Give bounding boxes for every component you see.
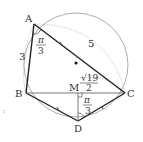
segment-bd xyxy=(26,93,78,121)
angle-d-numerator: π xyxy=(83,95,91,105)
label-d: D xyxy=(74,123,82,134)
mc-denominator: 2 xyxy=(86,83,92,93)
label-a: A xyxy=(24,13,33,24)
label-ab-length: 3 xyxy=(19,51,25,62)
right-angle-mark xyxy=(78,93,82,97)
angle-a-denominator: 3 xyxy=(38,46,44,56)
angle-d-denominator: 3 xyxy=(85,106,91,116)
label-m: M xyxy=(69,82,79,93)
mc-numerator: √19 xyxy=(81,73,98,83)
segment-ac xyxy=(34,24,125,93)
margin-mark: : xyxy=(3,107,5,115)
label-c: C xyxy=(127,88,135,99)
label-ac-length: 5 xyxy=(88,38,94,49)
center-point xyxy=(75,62,78,65)
angle-a-numerator: π xyxy=(37,35,45,45)
label-b: B xyxy=(15,88,22,99)
geometry-diagram: A B C D M 3 5 π 3 √19 2 π 3 : xyxy=(0,0,143,142)
